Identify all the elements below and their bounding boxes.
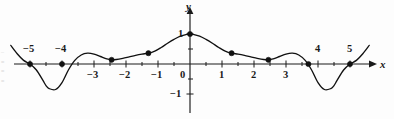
x-tick-label-3: 3 xyxy=(283,70,288,81)
x-tick-label-1: 1 xyxy=(219,70,224,81)
data-point xyxy=(306,61,311,66)
data-point xyxy=(146,51,151,56)
y-tick-label-neg1: −1 xyxy=(170,89,181,100)
data-point xyxy=(347,61,352,66)
data-point xyxy=(109,57,114,62)
y-axis-label: y xyxy=(186,1,191,12)
data-point xyxy=(229,51,234,56)
x-tick-label-neg4: −4 xyxy=(55,44,66,55)
data-point xyxy=(27,61,32,66)
plot-canvas xyxy=(0,0,394,119)
data-point xyxy=(59,61,64,66)
x-tick-label-neg5: −5 xyxy=(23,44,34,55)
x-tick-label-2: 2 xyxy=(251,70,256,81)
x-axis-arrow-icon xyxy=(369,61,377,68)
x-tick-label-4: 4 xyxy=(315,44,320,55)
y-tick-label-1: 1 xyxy=(178,29,183,40)
x-axis xyxy=(14,61,377,68)
x-tick-label-origin: 0 xyxy=(180,70,185,81)
y-axis xyxy=(187,7,194,113)
graph-figure: – ≡ ≡ ≡ xyxy=(0,0,394,119)
x-tick-label-neg2: −2 xyxy=(119,70,130,81)
x-axis-label: x xyxy=(380,59,386,70)
x-tick-label-neg3: −3 xyxy=(87,70,98,81)
x-tick-label-neg1: −1 xyxy=(151,70,162,81)
data-point xyxy=(187,31,192,36)
data-point xyxy=(266,57,271,62)
x-tick-label-5: 5 xyxy=(347,44,352,55)
